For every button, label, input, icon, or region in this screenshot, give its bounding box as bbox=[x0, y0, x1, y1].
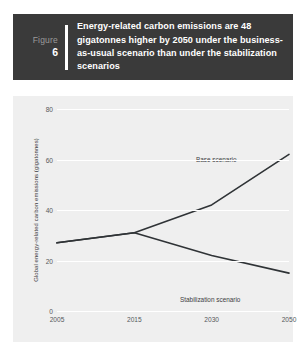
chart-panel: Global energy-related carbon emissions (… bbox=[13, 96, 293, 342]
x-tick-label: 2005 bbox=[50, 316, 65, 323]
gridline bbox=[57, 311, 289, 312]
gridline bbox=[57, 109, 289, 110]
series-line bbox=[57, 233, 289, 273]
x-tick-label: 2015 bbox=[127, 316, 142, 323]
figure-divider-rule bbox=[65, 25, 68, 70]
annotation-stabilization-scenario: Stabilization scenario bbox=[180, 296, 240, 303]
y-tick-label: 20 bbox=[46, 257, 53, 264]
gridline bbox=[57, 210, 289, 211]
figure-header-banner: Figure 6 Energy-related carbon emissions… bbox=[13, 14, 293, 80]
y-tick-label: 80 bbox=[46, 106, 53, 113]
x-tick-label: 2050 bbox=[282, 316, 297, 323]
gridline bbox=[57, 160, 289, 161]
y-tick-label: 0 bbox=[49, 308, 53, 315]
series-line bbox=[57, 154, 289, 242]
gridline bbox=[57, 261, 289, 262]
plot-area: Base scenario Stabilization scenario 020… bbox=[57, 109, 289, 311]
figure-title: Energy-related carbon emissions are 48 g… bbox=[77, 20, 293, 74]
figure-number: 6 bbox=[13, 46, 58, 58]
y-axis-title: Global energy-related carbon emissions (… bbox=[31, 109, 41, 311]
figure-number-block: Figure 6 bbox=[13, 36, 65, 58]
y-tick-label: 40 bbox=[46, 207, 53, 214]
figure-label: Figure bbox=[13, 36, 58, 46]
y-tick-label: 60 bbox=[46, 156, 53, 163]
y-axis-title-text: Global energy-related carbon emissions (… bbox=[33, 138, 39, 282]
x-tick-label: 2030 bbox=[204, 316, 219, 323]
